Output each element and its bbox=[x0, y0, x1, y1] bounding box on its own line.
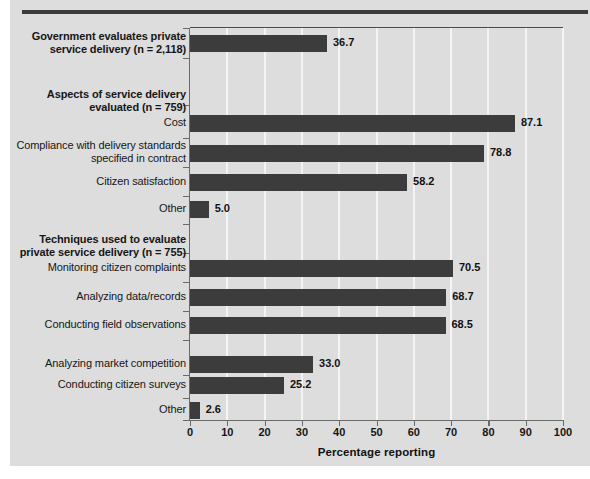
y-tick bbox=[183, 420, 190, 421]
y-tick bbox=[183, 167, 190, 168]
bar-value-label: 36.7 bbox=[333, 36, 354, 48]
bar-value-label: 68.7 bbox=[452, 290, 473, 302]
bar-value-label: 5.0 bbox=[215, 202, 230, 214]
x-tick-label-40: 40 bbox=[333, 426, 345, 438]
bar-value-label: 87.1 bbox=[521, 116, 542, 128]
category-label: Conducting citizen surveys bbox=[58, 378, 186, 391]
category-label: Other bbox=[159, 202, 186, 215]
top-rule bbox=[22, 10, 588, 14]
y-tick bbox=[183, 340, 190, 341]
bar bbox=[190, 115, 515, 132]
category-label: Cost bbox=[164, 116, 186, 129]
group-header-label: Techniques used to evaluate private serv… bbox=[20, 233, 186, 259]
x-tick-label-70: 70 bbox=[445, 426, 457, 438]
x-tick-label-100: 100 bbox=[554, 426, 572, 438]
x-tick-label-10: 10 bbox=[221, 426, 233, 438]
bar-value-label: 58.2 bbox=[413, 175, 434, 187]
bar bbox=[190, 35, 327, 52]
bar bbox=[190, 145, 484, 162]
y-tick bbox=[183, 398, 190, 399]
gridline-70 bbox=[450, 28, 452, 420]
bar-value-label: 33.0 bbox=[319, 357, 340, 369]
bar bbox=[190, 289, 446, 306]
y-tick bbox=[183, 58, 190, 59]
x-tick-label-0: 0 bbox=[187, 426, 193, 438]
bar bbox=[190, 260, 453, 277]
bar-value-label: 78.8 bbox=[490, 146, 511, 158]
bar bbox=[190, 402, 200, 419]
bar-value-label: 2.6 bbox=[206, 403, 221, 415]
y-tick bbox=[183, 375, 190, 376]
gridline-90 bbox=[525, 28, 527, 420]
x-axis-title: Percentage reporting bbox=[190, 446, 563, 458]
bar bbox=[190, 174, 407, 191]
x-tick-label-30: 30 bbox=[296, 426, 308, 438]
group-header-label: Aspects of service delivery evaluated (n… bbox=[47, 88, 186, 114]
gridline-100 bbox=[562, 28, 564, 420]
group-header-label: Government evaluates private service del… bbox=[32, 30, 186, 56]
category-label: Conducting field observations bbox=[45, 318, 186, 331]
y-tick bbox=[183, 311, 190, 312]
category-label: Compliance with delivery standards speci… bbox=[16, 139, 186, 165]
gridline-80 bbox=[487, 28, 489, 420]
x-tick-label-60: 60 bbox=[408, 426, 420, 438]
gridline-60 bbox=[413, 28, 415, 420]
category-label: Citizen satisfaction bbox=[96, 175, 186, 188]
x-tick-label-90: 90 bbox=[520, 426, 532, 438]
chart-figure: 0102030405060708090100 36.787.178.858.25… bbox=[0, 0, 590, 479]
gridline-50 bbox=[376, 28, 378, 420]
bar bbox=[190, 356, 313, 373]
bar bbox=[190, 377, 284, 394]
x-tick-label-20: 20 bbox=[258, 426, 270, 438]
category-label: Monitoring citizen complaints bbox=[48, 261, 186, 274]
bar-value-label: 25.2 bbox=[290, 378, 311, 390]
x-tick-label-80: 80 bbox=[482, 426, 494, 438]
y-tick bbox=[183, 224, 190, 225]
bar-value-label: 70.5 bbox=[459, 261, 480, 273]
x-tick-label-50: 50 bbox=[370, 426, 382, 438]
y-tick bbox=[183, 282, 190, 283]
bar bbox=[190, 317, 446, 334]
category-label: Analyzing market competition bbox=[45, 357, 186, 370]
bar-value-label: 68.5 bbox=[452, 318, 473, 330]
y-tick bbox=[183, 196, 190, 197]
category-label: Analyzing data/records bbox=[76, 290, 186, 303]
bar bbox=[190, 201, 209, 218]
category-label: Other bbox=[159, 403, 186, 416]
